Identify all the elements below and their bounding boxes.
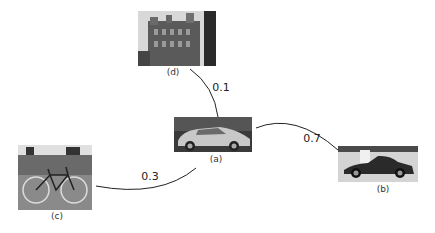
node-label-a: (a) xyxy=(210,154,223,164)
node-image-a xyxy=(174,117,252,152)
node-label-d: (d) xyxy=(167,67,180,77)
node-image-c xyxy=(18,145,92,210)
node-label-b: (b) xyxy=(377,184,390,194)
edge-weight-a-c: 0.3 xyxy=(141,170,159,183)
sports-car-image xyxy=(338,146,418,182)
node-image-d xyxy=(138,11,216,66)
edge-weight-a-d: 0.1 xyxy=(212,81,230,94)
edge-a-b xyxy=(256,123,338,150)
bicycle-image xyxy=(18,145,92,210)
node-image-b xyxy=(338,146,418,182)
sedan-image xyxy=(174,117,252,152)
node-label-c: (c) xyxy=(51,211,63,221)
edge-weight-a-b: 0.7 xyxy=(303,132,321,145)
building-image xyxy=(138,11,216,66)
